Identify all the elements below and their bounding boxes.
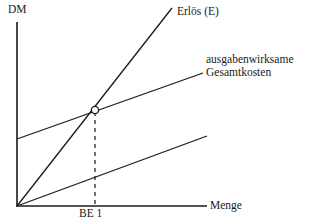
- total-costs-line-label: ausgabenwirksameGesamtkosten: [206, 53, 294, 79]
- break-even-chart: DM Menge Erlös (E) ausgabenwirksameGesam…: [0, 0, 323, 224]
- break-even-tick-label: BE 1: [79, 207, 102, 220]
- total-costs-line: [17, 73, 203, 139]
- y-axis-label: DM: [8, 3, 27, 16]
- chart-canvas: [0, 0, 323, 224]
- x-axis-label: Menge: [210, 199, 242, 212]
- total-costs-label-line-2: Gesamtkosten: [206, 66, 294, 79]
- revenue-line-label: Erlös (E): [177, 5, 219, 18]
- variable-costs-line: [17, 136, 207, 206]
- break-even-marker: [91, 106, 98, 113]
- total-costs-label-line-1: ausgabenwirksame: [206, 53, 294, 65]
